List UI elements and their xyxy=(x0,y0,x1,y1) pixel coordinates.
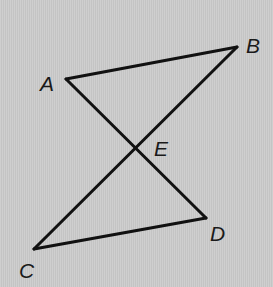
point-label-c: C xyxy=(19,259,35,282)
point-label-b: B xyxy=(246,34,260,57)
point-label-e: E xyxy=(154,137,169,160)
geometry-diagram: A B C D E xyxy=(0,0,273,287)
point-label-d: D xyxy=(210,222,225,245)
diagram-canvas: A B C D E xyxy=(0,0,273,287)
point-label-a: A xyxy=(38,72,54,95)
